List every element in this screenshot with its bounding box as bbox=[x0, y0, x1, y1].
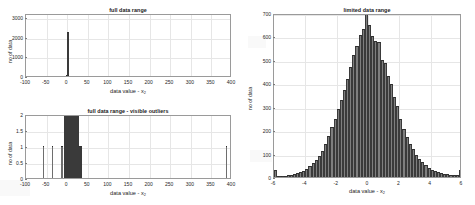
y-tick-mark bbox=[273, 178, 275, 179]
x-axis-label-full-data-range: data value - x2 bbox=[25, 88, 231, 95]
x-tick-label: 300 bbox=[186, 79, 194, 85]
plot-area-full-data-range bbox=[25, 14, 231, 77]
panel-title-limited-data-range: limited data range bbox=[273, 7, 461, 13]
y-tick-label: 200 bbox=[253, 128, 271, 134]
x-tick-label: 50 bbox=[84, 79, 90, 85]
x-tick-label: 200 bbox=[144, 181, 152, 187]
x-tick-label: 100 bbox=[103, 79, 111, 85]
y-tick-mark bbox=[273, 61, 275, 62]
x-axis-label-visible-outliers: data value - x2 bbox=[25, 190, 231, 197]
y-tick-label: 0.5 bbox=[6, 160, 23, 166]
y-tick-label: 300 bbox=[253, 105, 271, 111]
y-tick-mark bbox=[25, 147, 27, 148]
y-tick-label: 1.5 bbox=[6, 128, 23, 134]
x-tick-label: -100 bbox=[20, 181, 30, 187]
figure-canvas: full data range no of data data value - … bbox=[0, 0, 475, 205]
x-tick-label: 150 bbox=[124, 79, 132, 85]
y-tick-label: 2000 bbox=[6, 35, 23, 41]
y-tick-mark bbox=[273, 108, 275, 109]
y-tick-mark bbox=[25, 38, 27, 39]
x-tick-label: 250 bbox=[165, 79, 173, 85]
x-tick-label: 0 bbox=[366, 180, 369, 186]
bar-outlier bbox=[43, 146, 44, 178]
y-tick-label: 1000 bbox=[6, 54, 23, 60]
x-tick-label: 4 bbox=[428, 180, 431, 186]
x-tick-label: -100 bbox=[20, 79, 30, 85]
x-axis-label-text: data value - x bbox=[349, 188, 383, 194]
y-tick-label: 1 bbox=[6, 144, 23, 150]
plot-area-limited-data-range bbox=[273, 14, 461, 178]
bar-outlier bbox=[226, 146, 227, 178]
x-tick-label: -50 bbox=[42, 181, 49, 187]
x-tick-label: 2 bbox=[397, 180, 400, 186]
x-tick-label: -6 bbox=[271, 180, 275, 186]
panel-title-full-data-range: full data range bbox=[25, 7, 231, 13]
bar bbox=[80, 146, 82, 178]
x-axis-label-subscript: 2 bbox=[144, 90, 146, 95]
x-tick-label: 400 bbox=[227, 79, 235, 85]
y-tick-label: 600 bbox=[253, 34, 271, 40]
x-tick-label: 200 bbox=[144, 79, 152, 85]
plot-area-visible-outliers bbox=[25, 115, 231, 179]
y-tick-label: 700 bbox=[253, 11, 271, 17]
x-tick-label: 100 bbox=[103, 181, 111, 187]
x-tick-label: 300 bbox=[186, 181, 194, 187]
y-tick-mark bbox=[25, 77, 27, 78]
x-tick-label: 350 bbox=[206, 79, 214, 85]
x-tick-label: 150 bbox=[124, 181, 132, 187]
y-tick-mark bbox=[273, 84, 275, 85]
panel-full-data-range: full data range no of data data value - … bbox=[0, 0, 236, 100]
x-axis-label-subscript: 2 bbox=[144, 192, 146, 197]
y-tick-label: 3000 bbox=[6, 15, 23, 21]
x-tick-label: 400 bbox=[227, 181, 235, 187]
y-tick-mark bbox=[273, 155, 275, 156]
y-tick-label: 0 bbox=[253, 175, 271, 181]
y-tick-mark bbox=[273, 37, 275, 38]
y-tick-label: 500 bbox=[253, 58, 271, 64]
x-tick-label: 250 bbox=[165, 181, 173, 187]
x-axis-label-subscript: 2 bbox=[383, 190, 385, 195]
histogram-bars-full-data-range bbox=[26, 15, 230, 76]
panel-title-visible-outliers: full data range - visible outliers bbox=[25, 108, 231, 114]
bar-outlier bbox=[61, 146, 62, 178]
bar bbox=[459, 170, 461, 177]
bar bbox=[67, 32, 69, 77]
y-tick-mark bbox=[25, 163, 27, 164]
y-tick-label: 2 bbox=[6, 112, 23, 118]
panel-visible-outliers: full data range - visible outliers no of… bbox=[0, 103, 236, 205]
x-tick-label: 50 bbox=[84, 181, 90, 187]
x-tick-label: 0 bbox=[65, 181, 68, 187]
bar bbox=[68, 75, 69, 76]
x-tick-label: -4 bbox=[302, 180, 306, 186]
x-axis-label-text: data value - x bbox=[110, 88, 144, 94]
x-tick-label: 6 bbox=[460, 180, 463, 186]
histogram-bars-visible-outliers bbox=[26, 116, 230, 178]
x-axis-label-text: data value - x bbox=[110, 190, 144, 196]
histogram-bars-limited-data-range bbox=[274, 15, 460, 177]
x-tick-label: -2 bbox=[333, 180, 337, 186]
y-tick-mark bbox=[25, 131, 27, 132]
y-tick-mark bbox=[273, 131, 275, 132]
y-tick-label: 400 bbox=[253, 81, 271, 87]
y-tick-label: 100 bbox=[253, 152, 271, 158]
x-axis-label-limited-data-range: data value - x2 bbox=[273, 188, 461, 195]
x-tick-label: 0 bbox=[65, 79, 68, 85]
x-tick-label: -50 bbox=[42, 79, 49, 85]
y-tick-mark bbox=[25, 18, 27, 19]
panel-limited-data-range: limited data range no of data data value… bbox=[240, 0, 475, 205]
x-tick-label: 350 bbox=[206, 181, 214, 187]
y-tick-mark bbox=[25, 179, 27, 180]
bar-outlier bbox=[52, 146, 53, 178]
y-tick-mark bbox=[25, 57, 27, 58]
